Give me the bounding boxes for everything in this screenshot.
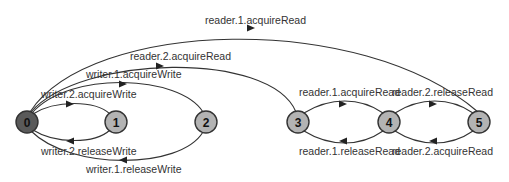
state-node-5[interactable]: 5 [468,111,490,133]
state-label-1: 1 [113,116,120,130]
state-node-4[interactable]: 4 [378,111,400,133]
state-node-2[interactable]: 2 [195,111,217,133]
state-label-0: 0 [24,116,31,130]
nodes: 0 1 2 3 4 5 [16,111,490,133]
edge-label-0-1: writer.2.acquireWrite [40,88,137,100]
state-node-0[interactable]: 0 [16,111,38,133]
arrow-head-icon [66,101,74,108]
edge-label-0-3: reader.2.acquireRead [130,50,231,62]
state-diagram: reader.1.acquireRead reader.2.acquireRea… [0,0,509,182]
edges: reader.1.acquireRead reader.2.acquireRea… [30,14,493,175]
state-label-5: 5 [476,116,483,130]
edge-label-4-3: reader.1.releaseRead [299,145,400,157]
state-node-3[interactable]: 3 [287,111,309,133]
arrow-head-icon [119,81,127,88]
edge-label-2-0: writer.1.releaseWrite [85,163,182,175]
state-node-1[interactable]: 1 [105,111,127,133]
edge-label-3-4: reader.1.acquireRead [299,86,400,98]
edge-label-4-5: reader.2.releaseRead [392,86,493,98]
state-label-2: 2 [203,116,210,130]
state-label-3: 3 [295,116,302,130]
edge-label-0-2: writer.1.acquireWrite [85,68,182,80]
state-label-4: 4 [386,116,393,130]
edge-label-0-5: reader.1.acquireRead [205,14,306,26]
arrow-head-icon [66,138,74,145]
edge-label-5-4: reader.2.acquireRead [392,145,493,157]
